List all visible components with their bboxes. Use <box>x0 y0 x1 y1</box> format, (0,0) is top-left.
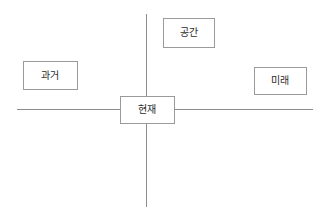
node-label-future: 미래 <box>271 76 289 86</box>
node-box-present[interactable]: 현재 <box>120 96 175 124</box>
node-box-past[interactable]: 과거 <box>23 61 78 90</box>
node-box-space[interactable]: 공간 <box>163 18 215 48</box>
node-label-space: 공간 <box>180 28 198 38</box>
node-label-present: 현재 <box>138 105 156 115</box>
diagram-canvas: 공간 과거 미래 현재 <box>0 0 329 222</box>
node-box-future[interactable]: 미래 <box>254 67 307 95</box>
node-label-past: 과거 <box>41 71 59 81</box>
